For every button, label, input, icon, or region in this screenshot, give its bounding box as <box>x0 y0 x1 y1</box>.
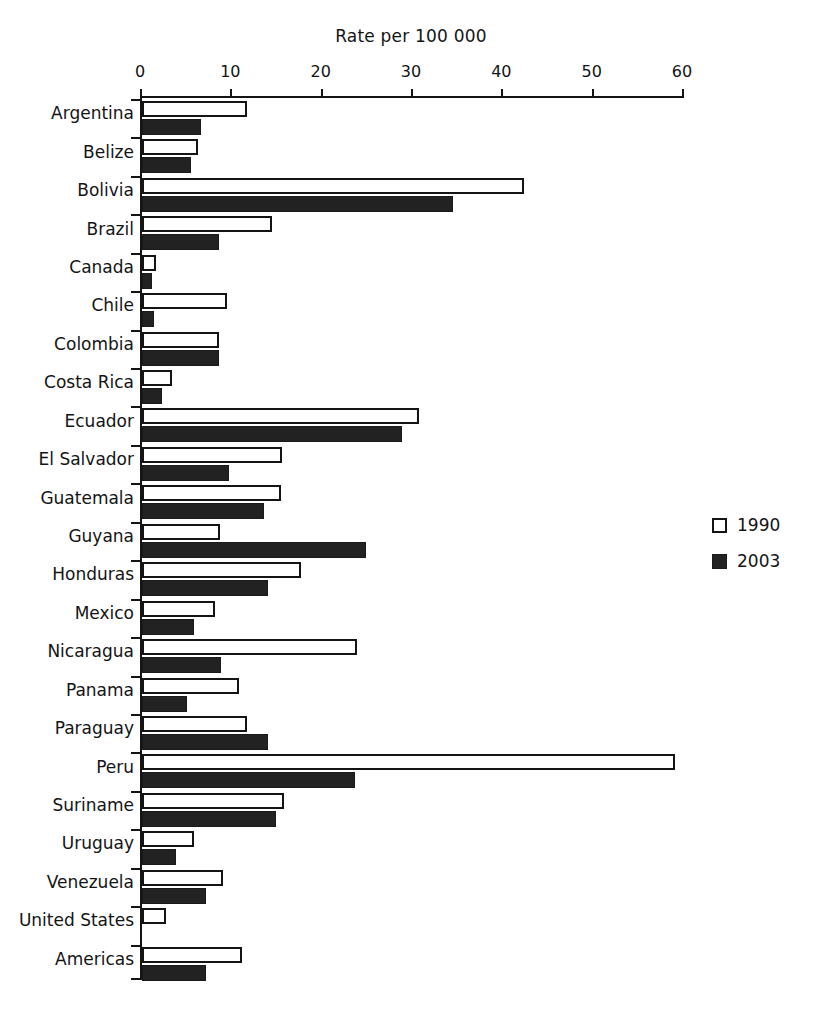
x-axis-tick <box>682 89 684 98</box>
bar-guyana-2003 <box>142 542 366 558</box>
legend-item-1990: 1990 <box>712 515 812 535</box>
category-axis-tick <box>131 560 141 562</box>
x-axis-tick <box>140 89 142 98</box>
bar-uruguay-2003 <box>142 849 176 865</box>
category-label-mexico: Mexico <box>2 603 134 623</box>
bar-venezuela-1990 <box>142 870 223 886</box>
bar-colombia-1990 <box>142 332 219 348</box>
x-axis-tick-label: 50 <box>581 62 601 81</box>
bar-colombia-2003 <box>142 350 219 366</box>
category-label-canada: Canada <box>2 257 134 277</box>
bar-uruguay-1990 <box>142 831 194 847</box>
category-label-americas: Americas <box>2 949 134 969</box>
category-axis-tick <box>131 868 141 870</box>
category-axis-tick <box>131 445 141 447</box>
category-label-argentina: Argentina <box>2 103 134 123</box>
hollow-square-icon <box>712 518 727 533</box>
category-label-costa-rica: Costa Rica <box>2 372 134 392</box>
category-axis-tick <box>131 137 141 139</box>
bar-honduras-1990 <box>142 562 301 578</box>
category-axis-tick <box>131 752 141 754</box>
plot-area: 0102030405060 <box>140 96 682 980</box>
category-axis-tick <box>131 330 141 332</box>
x-axis-tick <box>411 89 413 98</box>
category-axis-tick <box>131 253 141 255</box>
category-label-peru: Peru <box>2 757 134 777</box>
x-axis-tick <box>592 89 594 98</box>
category-axis-tick <box>131 599 141 601</box>
bar-mexico-2003 <box>142 619 194 635</box>
bar-venezuela-2003 <box>142 888 206 904</box>
bar-belize-1990 <box>142 139 198 155</box>
category-axis-tick <box>131 99 141 101</box>
x-axis-tick <box>321 89 323 98</box>
bar-costa-rica-1990 <box>142 370 172 386</box>
bar-paraguay-2003 <box>142 734 268 750</box>
category-label-nicaragua: Nicaragua <box>2 641 134 661</box>
bar-mexico-1990 <box>142 601 215 617</box>
x-axis-tick-label: 20 <box>310 62 330 81</box>
category-axis-tick <box>131 945 141 947</box>
bar-brazil-2003 <box>142 234 219 250</box>
bar-ecuador-1990 <box>142 408 419 424</box>
bar-argentina-1990 <box>142 101 247 117</box>
category-axis-tick <box>131 637 141 639</box>
bar-brazil-1990 <box>142 216 272 232</box>
x-axis-tick-label: 0 <box>135 62 145 81</box>
category-axis-tick <box>131 676 141 678</box>
category-axis-tick <box>131 291 141 293</box>
bar-honduras-2003 <box>142 580 268 596</box>
bar-belize-2003 <box>142 157 191 173</box>
bar-suriname-2003 <box>142 811 276 827</box>
bar-americas-1990 <box>142 947 242 963</box>
x-axis-tick-label: 40 <box>491 62 511 81</box>
bar-costa-rica-2003 <box>142 388 162 404</box>
category-axis-tick <box>131 791 141 793</box>
bar-guatemala-2003 <box>142 503 264 519</box>
bar-chart: Rate per 100 000 ArgentinaBelizeBoliviaB… <box>0 0 822 1014</box>
category-axis-tick <box>131 214 141 216</box>
x-axis-tick <box>230 89 232 98</box>
category-label-venezuela: Venezuela <box>2 872 134 892</box>
category-label-brazil: Brazil <box>2 219 134 239</box>
category-label-panama: Panama <box>2 680 134 700</box>
x-axis-tick-label: 60 <box>672 62 692 81</box>
category-axis-tick <box>131 483 141 485</box>
legend-label: 2003 <box>737 551 780 571</box>
category-label-suriname: Suriname <box>2 795 134 815</box>
bar-bolivia-1990 <box>142 178 524 194</box>
category-label-bolivia: Bolivia <box>2 180 134 200</box>
bar-el-salvador-2003 <box>142 465 229 481</box>
legend-label: 1990 <box>737 515 780 535</box>
category-axis-tick <box>131 522 141 524</box>
legend: 19902003 <box>712 515 812 587</box>
category-axis-tick <box>131 406 141 408</box>
category-axis-tick <box>131 714 141 716</box>
category-label-honduras: Honduras <box>2 564 134 584</box>
category-axis-tick <box>131 978 141 980</box>
bar-chile-2003 <box>142 311 154 327</box>
bar-panama-1990 <box>142 678 239 694</box>
category-label-paraguay: Paraguay <box>2 718 134 738</box>
legend-item-2003: 2003 <box>712 551 812 571</box>
bar-nicaragua-1990 <box>142 639 357 655</box>
bar-paraguay-1990 <box>142 716 247 732</box>
category-label-colombia: Colombia <box>2 334 134 354</box>
category-label-guyana: Guyana <box>2 526 134 546</box>
category-axis-tick <box>131 906 141 908</box>
x-axis-tick-label: 30 <box>401 62 421 81</box>
bar-argentina-2003 <box>142 119 201 135</box>
category-label-el-salvador: El Salvador <box>2 449 134 469</box>
x-axis-tick <box>501 89 503 98</box>
category-axis-tick <box>131 829 141 831</box>
category-label-ecuador: Ecuador <box>2 411 134 431</box>
category-label-belize: Belize <box>2 142 134 162</box>
category-label-chile: Chile <box>2 295 134 315</box>
bar-el-salvador-1990 <box>142 447 282 463</box>
bar-nicaragua-2003 <box>142 657 221 673</box>
bar-panama-2003 <box>142 696 187 712</box>
category-label-united-states: United States <box>2 910 134 930</box>
bar-canada-2003 <box>142 273 152 289</box>
bar-canada-1990 <box>142 255 156 271</box>
x-axis-tick-label: 10 <box>220 62 240 81</box>
